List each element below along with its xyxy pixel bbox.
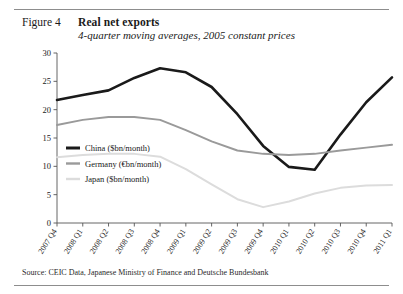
legend-label: Japan ($bn/month): [85, 174, 149, 184]
x-tick-label: 2007 Q4: [36, 227, 58, 255]
x-tick-label: 2008 Q2: [88, 227, 110, 255]
y-tick-label: 10: [43, 161, 52, 171]
x-tick-label: 2009 Q3: [217, 227, 239, 255]
x-tick-label: 2010 Q1: [268, 227, 290, 255]
y-tick-label: 0: [47, 218, 51, 228]
x-tick-label: 2010 Q2: [294, 227, 316, 255]
x-tick-label: 2009 Q2: [191, 227, 213, 255]
x-tick-label: 2011 Q1: [371, 227, 393, 255]
chart-axes: [57, 53, 392, 223]
line-chart: 051015202530 2007 Q42008 Q12008 Q22008 Q…: [0, 0, 403, 294]
x-tick-label: 2008 Q4: [139, 227, 161, 255]
x-tick-label: 2010 Q3: [320, 227, 342, 255]
x-tick-label: 2010 Q4: [346, 227, 368, 255]
y-axis-tick-labels: 051015202530: [43, 48, 58, 228]
x-tick-label: 2008 Q1: [62, 227, 84, 255]
x-axis-tick-labels: 2007 Q42008 Q12008 Q22008 Q32008 Q42009 …: [36, 223, 393, 256]
footer-divider-bottom: [14, 285, 389, 286]
y-tick-label: 25: [43, 76, 52, 86]
x-tick-label: 2008 Q3: [114, 227, 136, 255]
y-tick-label: 15: [43, 133, 52, 143]
y-tick-label: 30: [43, 48, 52, 58]
source-note: Source: CEIC Data, Japanese Ministry of …: [22, 268, 269, 277]
x-tick-label: 2009 Q4: [242, 227, 264, 255]
y-tick-label: 20: [43, 105, 52, 115]
axis-lines: [57, 53, 392, 223]
x-tick-label: 2009 Q1: [165, 227, 187, 255]
chart-series-layer: [57, 68, 392, 207]
legend-label: China ($bn/month): [85, 143, 150, 153]
legend-label: Germany (€bn/month): [85, 159, 161, 169]
chart-legend: China ($bn/month)Germany (€bn/month)Japa…: [66, 143, 161, 184]
y-tick-label: 5: [47, 190, 51, 200]
